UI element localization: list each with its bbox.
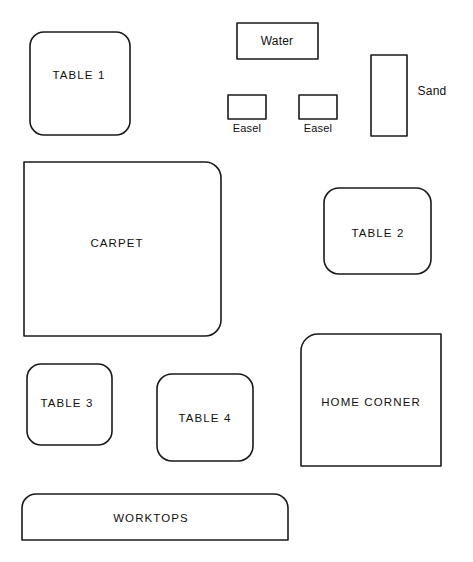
zone-label-sand: Sand [418,85,447,97]
zone-label-carpet: CARPET [90,238,143,250]
zone-shape-sand [371,55,407,136]
zone-label-worktops: WORKTOPS [113,513,189,525]
zone-label-easel-1: Easel [233,123,262,134]
zone-shape-easel-2 [299,95,337,119]
zone-label-home-corner: HOME CORNER [321,397,421,409]
zone-shape-easel-1 [228,95,266,119]
zone-shape-table-1 [30,32,130,135]
zone-label-table-2: TABLE 2 [352,228,405,240]
floor-plan-shapes [0,0,473,562]
zone-label-table-3: TABLE 3 [41,398,94,410]
zone-label-water: Water [261,35,294,47]
floor-plan-diagram: TABLE 1WaterEaselEaselSandCARPETTABLE 2T… [0,0,473,562]
zone-label-table-4: TABLE 4 [179,413,232,425]
zone-label-table-1: TABLE 1 [53,70,106,82]
zone-label-easel-2: Easel [304,123,333,134]
